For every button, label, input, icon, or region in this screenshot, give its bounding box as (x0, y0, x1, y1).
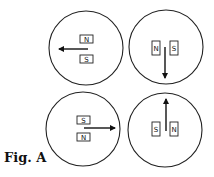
magnet-label: N (84, 36, 89, 44)
panel-bottom-right: SN (128, 93, 202, 167)
magnet-south: S (152, 122, 160, 136)
panel-circle (49, 11, 123, 85)
magnet-label: S (81, 117, 86, 125)
magnet-north: N (77, 133, 90, 142)
magnet-label: N (81, 134, 86, 142)
magnet-south: S (77, 116, 90, 125)
panel-circle (128, 93, 202, 167)
magnet-south: S (170, 41, 178, 55)
panel-circle (46, 92, 120, 166)
magnet-label: S (154, 126, 159, 134)
magnet-north: N (152, 41, 160, 55)
magnet-label: N (171, 126, 176, 134)
panel-bottom-left: SN (46, 92, 120, 166)
magnet-label: N (153, 45, 158, 53)
magnet-north: N (170, 122, 178, 136)
panel-top-right: NS (129, 10, 203, 84)
panel-top-left: NS (49, 11, 123, 85)
magnet-north: N (80, 35, 93, 44)
magnet-south: S (80, 55, 93, 64)
magnet-label: S (172, 45, 177, 53)
magnet-label: S (84, 56, 89, 64)
panel-circle (129, 10, 203, 84)
figure-caption: Fig. A (4, 150, 46, 165)
